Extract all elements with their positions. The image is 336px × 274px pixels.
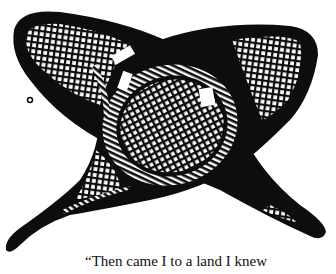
caption: “Then came I to a land I knew <box>0 252 336 270</box>
snowshoes-illustration <box>0 0 336 258</box>
